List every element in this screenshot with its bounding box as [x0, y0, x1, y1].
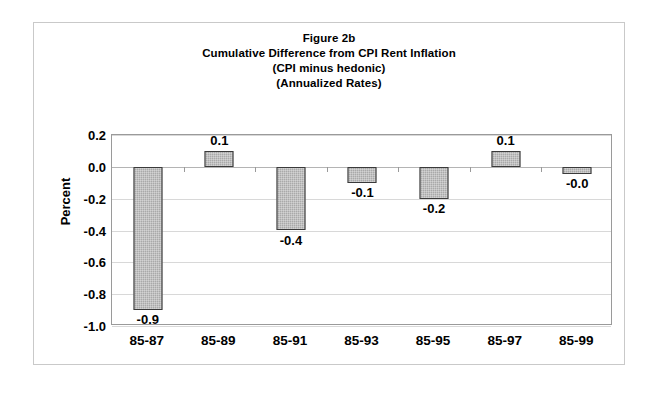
bar[interactable]: [205, 151, 234, 167]
bar-value-label: -0.9: [137, 312, 159, 327]
bar-slot: -0.0: [541, 135, 613, 324]
y-tick-label: 0.0: [66, 159, 106, 174]
x-tick-label: 85-95: [397, 333, 469, 357]
y-tick-label: -0.6: [66, 255, 106, 270]
bar-value-label: 0.1: [210, 133, 228, 148]
bar-value-label: -0.4: [280, 233, 302, 248]
y-axis-tick-labels: 0.20.0-0.2-0.4-0.6-0.8-1.0: [60, 134, 106, 325]
bar-value-label: -0.2: [423, 201, 445, 216]
bar[interactable]: [420, 167, 449, 199]
x-tick-label: 85-87: [111, 333, 183, 357]
y-tick-label: -0.4: [66, 223, 106, 238]
bar-slot: 0.1: [470, 135, 542, 324]
chart-title: Figure 2b Cumulative Difference from CPI…: [34, 31, 624, 91]
y-tick-label: -1.0: [66, 319, 106, 334]
x-tick-label: 85-93: [326, 333, 398, 357]
bar-slot: -0.1: [327, 135, 399, 324]
x-axis-tick-labels: 85-8785-8985-9185-9385-9585-9785-99: [111, 333, 612, 357]
y-tick-label: -0.2: [66, 191, 106, 206]
figure-card: Figure 2b Cumulative Difference from CPI…: [33, 22, 625, 365]
y-tick-label: -0.8: [66, 287, 106, 302]
bar[interactable]: [348, 167, 377, 183]
chart-title-line-4: (Annualized Rates): [34, 76, 624, 91]
plot-area: -0.90.1-0.4-0.1-0.20.1-0.0: [111, 134, 612, 325]
gridline: [112, 326, 611, 327]
bar-value-label: 0.1: [497, 133, 515, 148]
x-tick-label: 85-99: [540, 333, 612, 357]
bar-value-label: -0.1: [351, 185, 373, 200]
bar-slot: 0.1: [184, 135, 256, 324]
chart-title-line-1: Figure 2b: [34, 31, 624, 46]
bar[interactable]: [563, 167, 592, 174]
plot-inner: -0.90.1-0.4-0.1-0.20.1-0.0: [112, 135, 611, 324]
bar-slot: -0.9: [112, 135, 184, 324]
y-tick-label: 0.2: [66, 128, 106, 143]
x-tick-label: 85-89: [183, 333, 255, 357]
bar-slot: -0.2: [398, 135, 470, 324]
bar[interactable]: [133, 167, 162, 310]
bar-value-label: -0.0: [566, 176, 588, 191]
x-tick-label: 85-91: [254, 333, 326, 357]
bar-slot: -0.4: [255, 135, 327, 324]
x-tick-label: 85-97: [469, 333, 541, 357]
chart-title-line-3: (CPI minus hedonic): [34, 61, 624, 76]
bar[interactable]: [491, 151, 520, 167]
bar[interactable]: [276, 167, 305, 231]
chart-title-line-2: Cumulative Difference from CPI Rent Infl…: [34, 46, 624, 61]
